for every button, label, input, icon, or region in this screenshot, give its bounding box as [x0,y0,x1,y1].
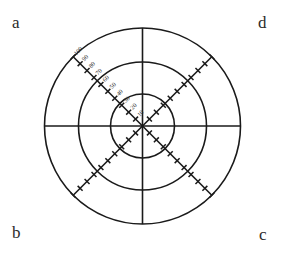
polar-diagram: 102030405060708090100 [0,0,281,255]
radial-scale-label-group: 102030405060708090100 [72,45,145,118]
radial-scale-label-50: 50 [108,81,117,90]
radial-scale-label-90: 90 [80,53,89,62]
radial-scale-label-60: 60 [101,74,110,83]
polar-chart-figure: 102030405060708090100 a d b c [0,0,281,255]
radial-scale-label-20: 20 [129,101,138,110]
corner-label-c: c [259,226,267,243]
radial-scale-label-70: 70 [94,67,103,76]
corner-label-a: a [12,14,20,31]
axis-group [45,28,241,224]
radial-scale-label-10: 10 [135,108,144,117]
radial-scale-label-80: 80 [87,60,96,69]
corner-label-d: d [258,14,267,31]
radial-scale-label-40: 40 [115,88,124,97]
corner-label-b: b [12,224,21,241]
